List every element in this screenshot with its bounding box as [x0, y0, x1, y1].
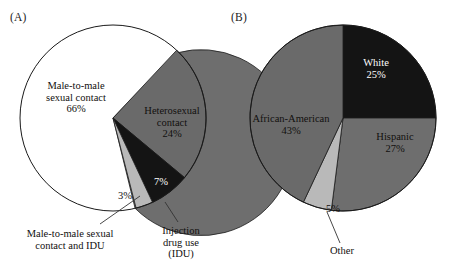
slice-label-line2: contact: [157, 117, 187, 128]
callout-line3: (IDU): [168, 248, 194, 259]
callout-line2: contact and IDU: [35, 240, 104, 251]
callout-male-to-male-and-idu: Male-to-male sexual contact and IDU: [6, 228, 134, 251]
slice-value-male-to-male-and-idu: 3%: [112, 190, 138, 202]
slice-label-line2: sexual contact: [46, 92, 106, 103]
slice-label-white: White 25%: [348, 57, 404, 80]
slice-value-male-to-male-sexual-contact: 66%: [24, 103, 128, 115]
slice-label-male-to-male-sexual-contact: Male-to-male sexual contact 66%: [24, 80, 128, 115]
slice-label-line1: White: [363, 57, 389, 68]
callout-line1: Injection: [162, 225, 199, 236]
slice-label-line1: Male-to-male: [47, 80, 104, 91]
callout-line2: drug use: [163, 237, 199, 248]
callout-injection-drug-use: Injection drug use (IDU): [143, 225, 219, 260]
slice-value-injection-drug-use: 7%: [148, 176, 174, 188]
slice-value-hispanic: 27%: [362, 143, 428, 155]
slice-label-line1: African-American: [253, 113, 330, 124]
figure-root: (A) (B) Male-to-male sexual contact 66% …: [0, 0, 462, 271]
slice-label-african-american: African-American 43%: [243, 113, 339, 136]
panel-tag-b: (B): [231, 11, 247, 23]
slice-label-hispanic: Hispanic 27%: [362, 131, 428, 154]
callout-line1: Male-to-male sexual: [27, 228, 114, 239]
panel-tag-a: (A): [10, 11, 27, 23]
slice-value-white: 25%: [348, 69, 404, 81]
slice-value-other: 5%: [320, 203, 346, 215]
slice-label-line1: Heterosexual: [144, 105, 199, 116]
slice-label-line1: Hispanic: [376, 131, 413, 142]
slice-value-heterosexual-contact: 24%: [126, 128, 218, 140]
slice-value-african-american: 43%: [243, 125, 339, 137]
callout-other: Other: [318, 245, 366, 257]
callout-line1: Other: [330, 245, 354, 256]
leader-line-other: [327, 212, 340, 243]
slice-label-heterosexual-contact: Heterosexual contact 24%: [126, 105, 218, 140]
